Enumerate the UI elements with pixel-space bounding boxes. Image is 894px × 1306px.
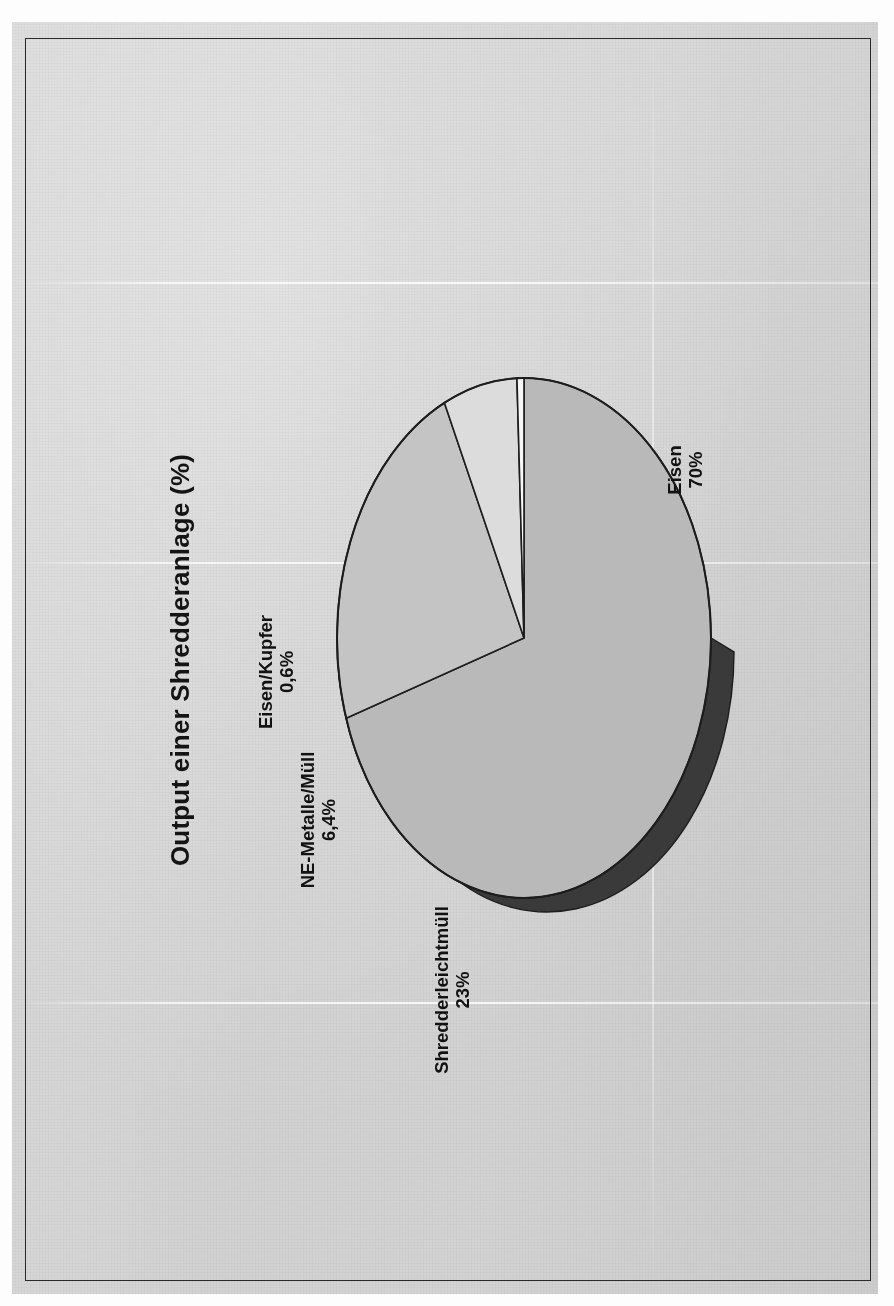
chart-frame-border [25,38,871,1281]
scanned-page: Output einer Shredderanlage (%) Eisen 70… [0,0,894,1306]
